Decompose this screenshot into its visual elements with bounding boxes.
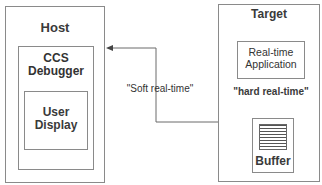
target-title: Target: [218, 8, 320, 21]
buffer-lines-icon: [259, 124, 287, 150]
ccs-debugger-label-line2: Debugger: [18, 65, 94, 78]
buffer-label: Buffer: [252, 155, 294, 168]
user-display-label: User Display: [24, 106, 88, 132]
real-time-application-label-line1: Real-time: [237, 47, 305, 59]
real-time-application-label-line2: Application: [237, 59, 305, 71]
user-display-label-line2: Display: [24, 119, 88, 132]
host-title: Host: [5, 21, 105, 35]
hard-real-time-label: "hard real-time": [222, 86, 320, 97]
ccs-debugger-label: CCS Debugger: [18, 52, 94, 78]
soft-real-time-label: "Soft real-time": [115, 83, 205, 94]
real-time-application-label: Real-time Application: [237, 47, 305, 70]
